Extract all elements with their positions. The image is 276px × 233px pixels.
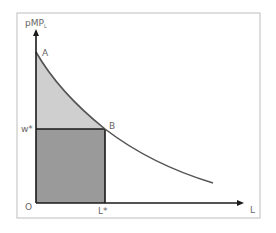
y-axis-arrow-icon	[33, 29, 39, 36]
marginal-product-diagram: pMPL A B w* O L* L	[0, 0, 276, 233]
point-b-label: B	[109, 121, 115, 131]
point-a-label: A	[42, 48, 49, 58]
wage-bill-region	[36, 129, 105, 203]
wage-label: w*	[21, 124, 33, 134]
labor-label: L*	[98, 206, 108, 216]
y-axis-label: pMPL	[25, 18, 47, 29]
x-axis-arrow-icon	[237, 200, 244, 206]
origin-label: O	[25, 202, 32, 212]
x-axis-label: L	[250, 205, 255, 215]
surplus-region	[36, 52, 105, 129]
